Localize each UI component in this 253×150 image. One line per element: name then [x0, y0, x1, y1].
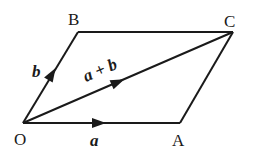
point-label-A: A — [172, 131, 185, 150]
side-AC — [180, 32, 233, 123]
arrow-a-plus-b-icon — [110, 75, 127, 90]
point-label-B: B — [68, 10, 79, 29]
arrow-a-icon — [92, 118, 106, 128]
point-label-O: O — [14, 130, 26, 149]
diagonal-OC — [23, 32, 233, 123]
vector-label-a: a — [90, 131, 99, 150]
point-label-C: C — [224, 12, 235, 31]
vector-label-b: b — [32, 62, 41, 81]
arrow-b-icon — [44, 65, 60, 82]
parallelogram-diagram: B C O A b a + b a — [0, 0, 253, 150]
